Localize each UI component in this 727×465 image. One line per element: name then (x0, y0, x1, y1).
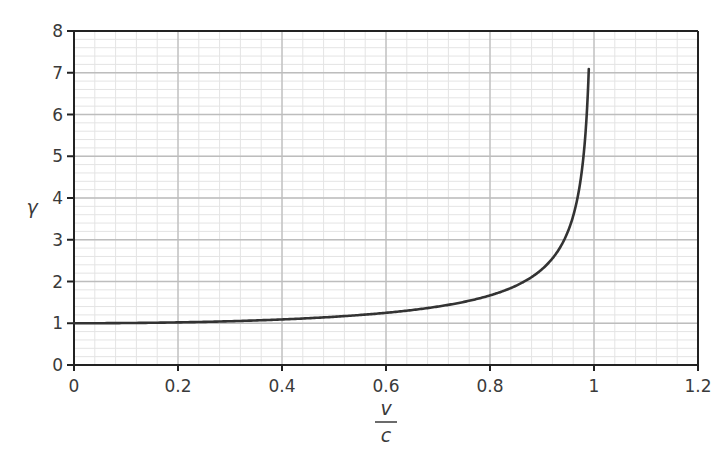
gamma-curve (74, 69, 589, 323)
x-tick-label: 0.6 (372, 376, 399, 396)
x-tick-label: 0.8 (476, 376, 503, 396)
x-tick-label: 0.4 (268, 376, 295, 396)
y-axis-label: γ (26, 196, 39, 218)
y-tick-label: 1 (52, 313, 63, 333)
y-tick-label: 3 (52, 230, 63, 250)
x-tick-label: 0.2 (164, 376, 191, 396)
lorentz-factor-chart: 00.20.40.60.811.2 012345678 γ v c (0, 0, 727, 465)
x-axis-label: v c (375, 397, 397, 446)
y-tick-label: 0 (52, 355, 63, 375)
y-tick-label: 5 (52, 146, 63, 166)
y-axis-ticks: 012345678 (52, 21, 74, 375)
x-axis-label-denominator: c (381, 424, 392, 446)
y-tick-label: 4 (52, 188, 63, 208)
x-tick-label: 1.2 (684, 376, 711, 396)
y-tick-label: 8 (52, 21, 63, 41)
x-axis-label-numerator: v (380, 397, 392, 419)
x-tick-label: 1 (589, 376, 600, 396)
x-axis-ticks: 00.20.40.60.811.2 (69, 365, 712, 396)
y-tick-label: 6 (52, 105, 63, 125)
y-tick-label: 2 (52, 272, 63, 292)
y-tick-label: 7 (52, 63, 63, 83)
x-tick-label: 0 (69, 376, 80, 396)
